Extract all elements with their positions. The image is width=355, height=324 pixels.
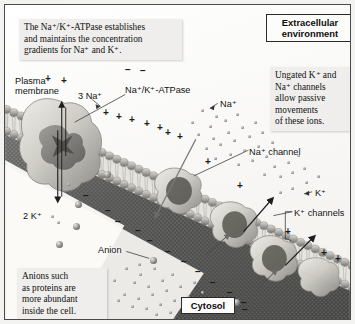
label-potassium-ion: K⁺ xyxy=(315,187,326,198)
label-sodium-ion: Na⁺ xyxy=(220,98,237,109)
label-anion: Anion xyxy=(98,245,122,255)
channel-inflow-arrow-1 xyxy=(206,236,228,256)
callout-ungated-channels: Ungated K⁺ and Na⁺ channels allow passiv… xyxy=(270,67,351,131)
label-plasma-line-2: membrane xyxy=(15,86,59,96)
label-cytosol: Cytosol xyxy=(181,297,235,314)
label-plasma-membrane: Plasma membrane xyxy=(15,76,59,97)
label-two-potassium: 2 K⁺ xyxy=(23,210,42,221)
callout-ungated-line-1: Ungated K⁺ and xyxy=(275,70,351,82)
label-sodium-potassium-atpase: Na⁺/K⁺-ATPase xyxy=(125,84,190,95)
figure-frame: ++++++++++++++−−−−−−−−−−−−−− xyxy=(4,4,351,320)
potassium-efflux-arrow-1 xyxy=(244,200,272,232)
channel-inflow-arrow-2 xyxy=(256,271,276,291)
callout-atpase-line-2: and maintains the concentration xyxy=(24,34,177,46)
callout-anions-line-3: more abundant xyxy=(22,294,102,306)
figure-root: ++++++++++++++−−−−−−−−−−−−−− xyxy=(0,0,355,324)
callout-ungated-line-3: allow passive xyxy=(275,93,351,105)
callout-ungated-line-5: of these ions. xyxy=(275,116,351,128)
callout-anions-line-2: as proteins are xyxy=(22,283,102,295)
sodium-influx-arrow xyxy=(156,139,196,216)
label-three-sodium: 3 Na⁺ xyxy=(78,90,102,101)
callout-atpase-line-3: gradients for Na⁺ and K⁺. xyxy=(24,45,177,57)
pump-potassium-in-arrow xyxy=(58,130,62,200)
potassium-efflux-arrow-2 xyxy=(285,238,313,266)
label-sodium-channel: Na⁺ channel xyxy=(249,146,300,157)
label-potassium-channels: K⁺ channels xyxy=(294,207,344,218)
callout-ungated-line-4: movements xyxy=(275,105,351,117)
callout-atpase-function: The Na⁺/K⁺-ATPase establishes and mainta… xyxy=(19,19,182,60)
label-extracellular-environment: Extracellular environment xyxy=(266,14,351,42)
callout-anions: Anions such as proteins are more abundan… xyxy=(17,268,107,320)
label-plasma-line-1: Plasma xyxy=(15,76,59,86)
callout-anions-line-4: inside the cell. xyxy=(22,306,102,318)
callout-ungated-line-2: Na⁺ channels xyxy=(275,82,351,94)
callout-atpase-line-1: The Na⁺/K⁺-ATPase establishes xyxy=(24,22,177,34)
label-extracellular-line-1: Extracellular xyxy=(272,17,348,28)
label-extracellular-line-2: environment xyxy=(272,28,348,39)
pump-sodium-out-arrow xyxy=(62,104,66,156)
callout-anions-line-1: Anions such xyxy=(22,271,102,283)
